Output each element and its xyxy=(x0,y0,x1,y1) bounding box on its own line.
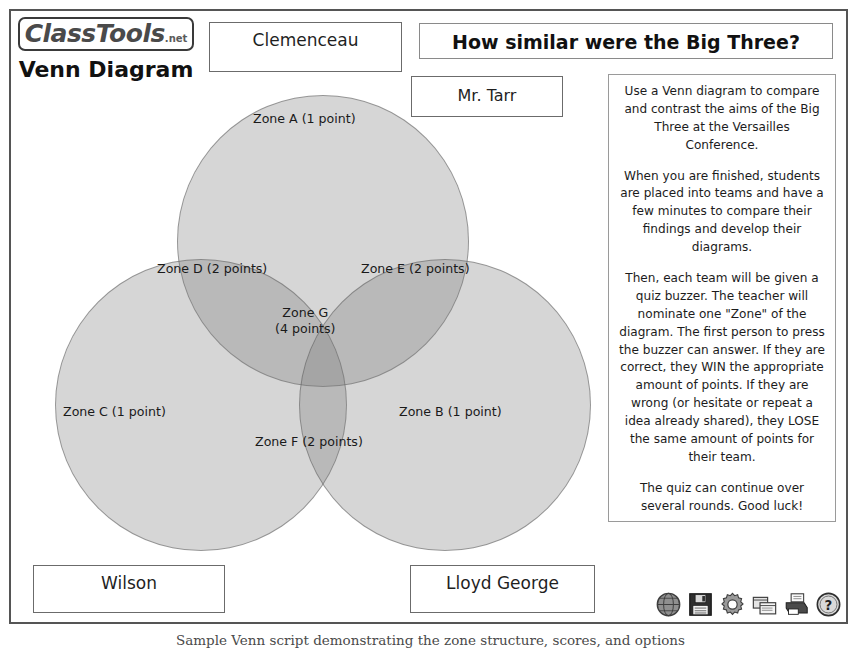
brand-block: ClassTools.net Venn Diagram xyxy=(17,17,195,83)
classtools-logo[interactable]: ClassTools.net xyxy=(18,17,195,51)
venn-diagram: Zone A (1 point) Zone D (2 points) Zone … xyxy=(29,89,594,567)
circle-label-clemenceau[interactable]: Clemenceau xyxy=(209,22,402,72)
instructions-paragraph-4: The quiz can continue over several round… xyxy=(618,480,826,516)
globe-icon[interactable] xyxy=(656,591,681,618)
application-frame: ClassTools.net Venn Diagram Clemenceau H… xyxy=(9,9,848,624)
gear-icon[interactable] xyxy=(720,591,745,618)
circle-label-lloyd-george[interactable]: Lloyd George xyxy=(410,565,595,613)
logo-suffix: .net xyxy=(165,34,187,46)
svg-text:?: ? xyxy=(825,597,833,612)
figure-caption: Sample Venn script demonstrating the zon… xyxy=(0,632,861,648)
windows-icon[interactable] xyxy=(752,591,777,618)
instructions-paragraph-1: Use a Venn diagram to compare and contra… xyxy=(618,83,826,155)
circle-label-wilson[interactable]: Wilson xyxy=(33,565,225,613)
bottom-toolbar: ? xyxy=(656,587,841,621)
printer-icon[interactable] xyxy=(784,591,809,618)
tool-title: Venn Diagram xyxy=(17,58,195,83)
instructions-paragraph-3: Then, each team will be given a quiz buz… xyxy=(618,270,826,467)
page-title[interactable]: How similar were the Big Three? xyxy=(419,23,833,59)
logo-wordmark: ClassTools xyxy=(25,21,165,46)
help-icon[interactable]: ? xyxy=(816,591,841,618)
instructions-panel[interactable]: Use a Venn diagram to compare and contra… xyxy=(608,74,836,522)
save-icon[interactable] xyxy=(688,591,713,618)
instructions-paragraph-2: When you are finished, students are plac… xyxy=(618,168,826,257)
venn-circle-lloyd-george[interactable] xyxy=(299,259,591,551)
